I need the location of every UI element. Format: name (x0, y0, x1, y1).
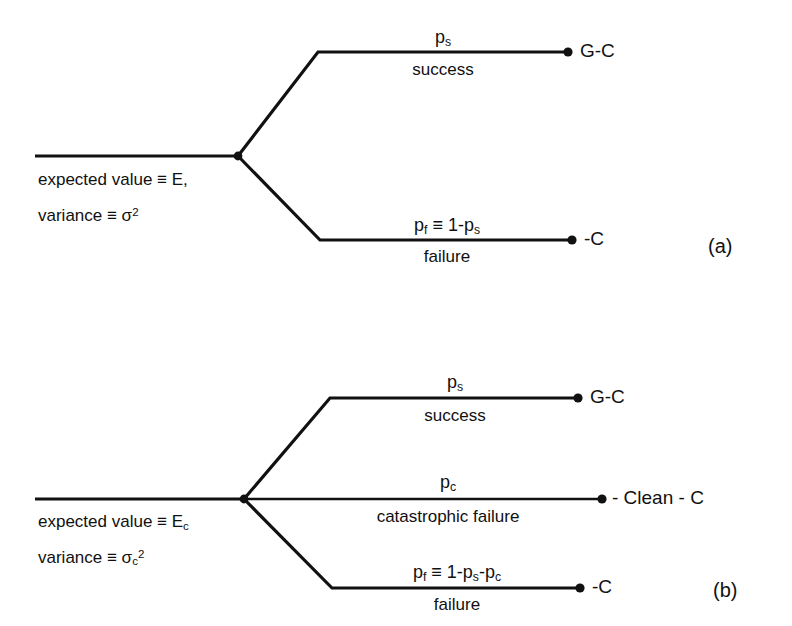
panel-b-success-probability: ps (447, 373, 463, 394)
panel-b-catastrophic-probability: pc (440, 473, 456, 494)
panel-a-terminal-label-success: G-C (580, 41, 615, 61)
panel-b-terminal-label-success: G-C (590, 387, 625, 407)
panel-b-catastrophic-outcome-label: catastrophic failure (377, 508, 520, 526)
panel-a-terminal-node-success (563, 47, 572, 56)
decision-tree-figure: ps success G-C expected value ≡ E, varia… (0, 0, 792, 626)
tree-lines-svg (0, 0, 792, 626)
panel-b-failure-outcome-label: failure (434, 596, 480, 614)
panel-a-failure-probability: pf ≡ 1-ps (414, 216, 480, 237)
panel-a-terminal-node-failure (567, 235, 576, 244)
panel-b-decision-node (240, 495, 249, 504)
panel-a-success-probability: ps (435, 28, 451, 49)
panel-b-success-branch (244, 398, 578, 499)
panel-b-terminal-label-catastrophic: - Clean - C (612, 488, 704, 508)
panel-b-success-outcome-label: success (424, 407, 485, 425)
panel-b-tag: (b) (713, 580, 737, 601)
panel-a-expected-value-label: expected value ≡ E, (38, 171, 188, 189)
panel-a-failure-outcome-label: failure (424, 248, 470, 266)
panel-a-failure-branch (238, 156, 572, 240)
panel-b-variance-label: variance ≡ σc2 (38, 548, 144, 568)
panel-b-terminal-node-catastrophic (597, 494, 606, 503)
panel-a-variance-label: variance ≡ σ2 (38, 206, 139, 225)
panel-b-failure-probability: pf ≡ 1-ps-pc (413, 563, 501, 584)
panel-a-tag: (a) (708, 236, 732, 257)
panel-b-terminal-node-failure (575, 583, 584, 592)
panel-b-expected-value-label: expected value ≡ Ec (38, 513, 189, 532)
panel-a-decision-node (234, 152, 243, 161)
panel-a-success-branch (238, 52, 568, 156)
panel-b-terminal-node-success (573, 393, 582, 402)
panel-b-terminal-label-failure: -C (592, 577, 612, 597)
panel-a-terminal-label-failure: -C (584, 229, 604, 249)
panel-a-success-outcome-label: success (412, 61, 473, 79)
